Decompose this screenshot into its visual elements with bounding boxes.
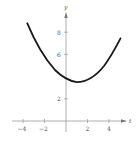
y-axis-arrow-icon <box>64 12 67 18</box>
x-axis-label: t <box>129 117 132 124</box>
x-tick-label: −4 <box>18 125 27 132</box>
x-tick-label: 2 <box>86 125 90 132</box>
chart: y t −4 −2 2 4 2 6 8 <box>0 0 138 142</box>
y-tick-label: 6 <box>57 51 61 58</box>
x-tick-label: −2 <box>39 125 48 132</box>
x-tick-label: 4 <box>107 125 111 132</box>
y-axis-label: y <box>63 3 68 11</box>
y-tick-label: 2 <box>57 95 61 102</box>
y-tick-label: 8 <box>57 29 61 36</box>
data-curve <box>27 23 120 82</box>
x-axis-arrow-icon <box>121 119 127 122</box>
